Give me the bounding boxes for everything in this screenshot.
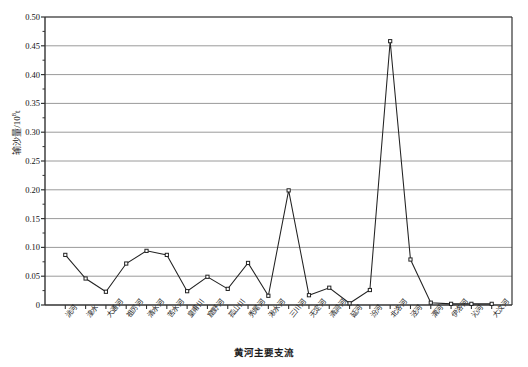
x-axis-tick-label: 三川河: [287, 297, 307, 319]
x-axis-tick-label: 洮河: [63, 302, 79, 319]
x-axis-tick-label: 无定河: [307, 297, 327, 319]
x-axis-tick-label: 秃尾河: [246, 297, 266, 319]
x-axis-tick-label: 清涧河: [327, 297, 347, 319]
x-axis-tick-label: 湟水: [84, 302, 100, 319]
x-axis-title: 黄河主要支流: [0, 345, 528, 359]
x-axis-tick-label: 苦水河: [165, 297, 185, 319]
chart-figure: 输沙量/108t 0.500.450.400.350.300.250.200.1…: [0, 0, 528, 367]
x-axis-tick-label: 伊洛河: [449, 297, 469, 319]
x-axis-tick-label: 泾河: [408, 302, 424, 319]
x-axis-tick-label: 祖厉河: [124, 297, 144, 319]
x-axis-tick-label: 沁河: [469, 302, 485, 319]
x-axis-tick-label: 皇甫川: [185, 297, 205, 319]
x-axis-tick-label: 清水河: [145, 297, 165, 319]
x-axis-tick-label: 湫水河: [266, 297, 286, 319]
x-axis-tick-label: 大汶河: [490, 297, 510, 319]
x-axis-tick-label: 大通河: [104, 297, 124, 319]
x-axis-tick-label: 延河: [348, 302, 364, 319]
x-axis-tick-label: 汾河: [368, 302, 384, 319]
x-axis-tick-label: 北洛河: [388, 297, 408, 319]
x-axis-tick-label: 渭河: [429, 302, 445, 319]
x-axis-tick-labels: 洮河湟水大通河祖厉河清水河苦水河皇甫川窟野河孤山川秃尾河湫水河三川河无定河清涧河…: [0, 0, 528, 367]
x-axis-tick-label: 窟野河: [205, 297, 225, 319]
x-axis-tick-label: 孤山川: [226, 297, 246, 319]
